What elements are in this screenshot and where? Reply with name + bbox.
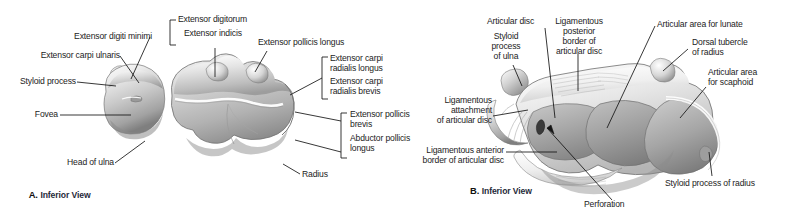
label-extensor-pollicis-longus: Extensor pollicis longus [258,38,344,48]
label-extensor-digitorum: Extensor digitorum [178,15,247,25]
label-head-of-ulna: Head of ulna [46,158,114,168]
label-extensor-carpi-ulnaris: Extensor carpi ulnaris [6,51,120,61]
label-ligamentous-attachment-line3: of articular disc [396,116,492,126]
label-dorsal-tubercle-of-radius-line2: of radius [692,48,724,58]
label-styloid-process-of-ulna-line3: of ulna [478,52,534,62]
radius-dorsal-band-shape [174,56,293,95]
label-styloid-process-of-radius: Styloid process of radius [665,179,755,189]
label-extensor-carpi-radialis-brevis-line2: radialis brevis [330,87,380,97]
label-extensor-carpi-radialis-longus-line2: radialis longus [330,64,383,74]
label-ligamentous-posterior-border-line4: articular disc [540,47,618,57]
anatomy-figure: Extensor digiti minimi Extensor carpi ul… [0,0,790,221]
label-perforation: Perforation [584,200,624,210]
label-articular-area-for-lunate: Articular area for lunate [657,20,743,30]
label-extensor-digiti-minimi: Extensor digiti minimi [28,32,152,42]
panel-b-caption: B. Inferior View [460,174,532,207]
panel-b-view: Inferior View [482,186,532,196]
label-fovea: Fovea [22,110,58,120]
label-articular-disc: Articular disc [487,17,534,27]
panel-a-view: Inferior View [40,190,90,200]
radius-tubercle-1-shape [206,62,228,81]
label-extensor-indicis: Extensor indicis [184,29,242,39]
label-radius: Radius [302,170,328,180]
label-styloid-process: Styloid process [4,77,76,87]
label-abductor-pollicis-longus-line2: longus [350,144,374,154]
label-extensor-pollicis-brevis-line2: brevis [350,120,372,130]
label-ligamentous-anterior-border-line2: border of articular disc [396,156,504,166]
label-articular-area-for-scaphoid-line2: for scaphoid [708,78,753,88]
panel-a-letter: A. [29,189,38,200]
panel-a-caption: A. Inferior View [19,178,91,211]
panel-b-letter: B. [470,185,479,196]
